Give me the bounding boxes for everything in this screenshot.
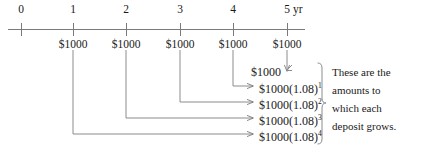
growth-exponent-2: 2 (318, 97, 322, 106)
annotation-line-1: These are the (332, 65, 391, 79)
growth-amount-row-0: $1000 (251, 66, 281, 79)
growth-amount-text-4: $1000(1.08) (259, 130, 318, 144)
growth-amount-row-4: $1000(1.08)4 (259, 131, 322, 144)
growth-amount-row-1: $1000(1.08)1 (259, 83, 322, 96)
growth-amount-row-3: $1000(1.08)3 (259, 115, 322, 128)
growth-exponent-1: 1 (318, 81, 322, 90)
connector-year-3 (180, 50, 253, 102)
timeline-diagram: 0 1 2 3 4 5 yr $1000 $1000 $1000 $1000 $… (0, 0, 427, 153)
growth-exponent-3: 3 (318, 113, 322, 122)
growth-exponent-4: 4 (318, 129, 322, 138)
connector-year-4 (233, 50, 253, 86)
annotation-line-3: which each (332, 101, 382, 115)
growth-amount-text-3: $1000(1.08) (259, 114, 318, 128)
growth-amount-text-0: $1000 (251, 65, 281, 79)
connector-year-1 (73, 50, 253, 134)
growth-amount-text-2: $1000(1.08) (259, 98, 318, 112)
connector-year-2 (126, 50, 253, 118)
growth-amount-text-1: $1000(1.08) (259, 82, 318, 96)
annotation-line-4: deposit grows. (332, 119, 396, 133)
growth-amount-row-2: $1000(1.08)2 (259, 99, 322, 112)
annotation-line-2: amounts to (332, 83, 381, 97)
